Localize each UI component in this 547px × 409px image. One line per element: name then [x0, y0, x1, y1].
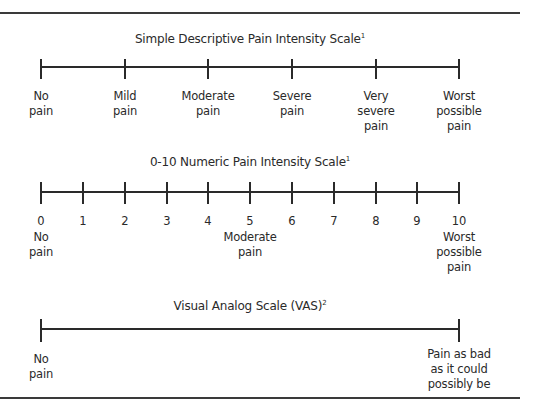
numeric-value-0: 0 — [26, 214, 56, 229]
vas-anchor-no-pain: No pain — [0, 352, 86, 382]
numeric-tick-4 — [207, 182, 209, 204]
numeric-tick-7 — [333, 182, 335, 204]
descriptive-label-very-severe-pain: Very severe pain — [331, 89, 421, 134]
descriptive-label-moderate-pain: Moderate pain — [163, 89, 253, 119]
numeric-value-3: 3 — [152, 214, 182, 229]
descriptive-label-mild-pain: Mild pain — [80, 89, 170, 119]
numeric-value-4: 4 — [193, 214, 223, 229]
vas-tick-right — [458, 319, 460, 342]
numeric-tick-8 — [375, 182, 377, 204]
numeric-tick-5 — [249, 182, 251, 204]
numeric-tick-3 — [166, 182, 168, 204]
numeric-title-text: 0-10 Numeric Pain Intensity Scale — [150, 155, 346, 169]
numeric-tick-6 — [291, 182, 293, 204]
descriptive-tick-5 — [458, 59, 460, 79]
numeric-value-7: 7 — [319, 214, 349, 229]
numeric-value-1: 1 — [68, 214, 98, 229]
numeric-anchor-moderate-pain: Moderate pain — [205, 230, 295, 260]
numeric-anchor-worst-possible-pain: Worst possible pain — [414, 230, 504, 275]
vas-scale-title: Visual Analog Scale (VAS)2 — [0, 299, 500, 313]
vas-scale-axis — [41, 328, 459, 330]
descriptive-title-footnote: 1 — [361, 32, 365, 40]
descriptive-scale-title: Simple Descriptive Pain Intensity Scale1 — [0, 32, 500, 46]
numeric-value-2: 2 — [110, 214, 140, 229]
descriptive-tick-2 — [207, 59, 209, 79]
descriptive-scale-axis — [41, 66, 459, 68]
numeric-tick-0 — [40, 182, 42, 204]
descriptive-label-no-pain: No pain — [0, 89, 86, 119]
numeric-value-6: 6 — [277, 214, 307, 229]
numeric-tick-2 — [124, 182, 126, 204]
numeric-tick-1 — [82, 182, 84, 204]
descriptive-label-severe-pain: Severe pain — [247, 89, 337, 119]
numeric-value-8: 8 — [361, 214, 391, 229]
top-border-rule — [0, 12, 520, 14]
numeric-value-10: 10 — [444, 214, 474, 229]
descriptive-label-worst-possible-pain: Worst possible pain — [414, 89, 504, 134]
descriptive-tick-1 — [124, 59, 126, 79]
vas-title-footnote: 2 — [322, 299, 326, 307]
descriptive-title-text: Simple Descriptive Pain Intensity Scale — [135, 32, 361, 46]
numeric-value-5: 5 — [235, 214, 265, 229]
numeric-tick-10 — [458, 182, 460, 204]
numeric-tick-9 — [416, 182, 418, 204]
vas-tick-left — [40, 319, 42, 342]
numeric-anchor-no-pain: No pain — [0, 230, 86, 260]
descriptive-tick-3 — [291, 59, 293, 79]
descriptive-tick-0 — [40, 59, 42, 79]
vas-anchor-worst-pain: Pain as bad as it could possibly be — [414, 347, 504, 392]
bottom-border-rule — [0, 397, 520, 399]
numeric-scale-title: 0-10 Numeric Pain Intensity Scale1 — [0, 155, 500, 169]
numeric-value-9: 9 — [402, 214, 432, 229]
descriptive-tick-4 — [375, 59, 377, 79]
numeric-title-footnote: 1 — [346, 155, 350, 163]
vas-title-text: Visual Analog Scale (VAS) — [174, 299, 323, 313]
